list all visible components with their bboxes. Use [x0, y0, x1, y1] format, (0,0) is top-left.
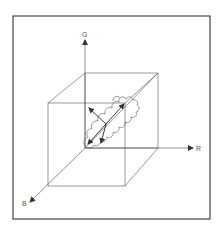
g-axis-label: G: [82, 31, 87, 38]
rgb-cube-diagram: G R B: [0, 0, 221, 231]
b-axis-label: B: [22, 200, 27, 207]
r-axis-label: R: [196, 145, 201, 152]
